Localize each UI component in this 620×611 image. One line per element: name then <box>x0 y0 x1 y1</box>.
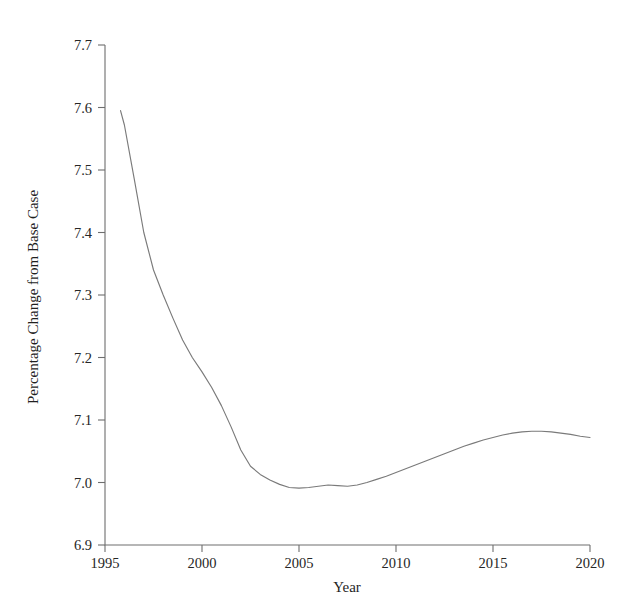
axis-frame <box>105 45 590 545</box>
x-axis-tick-label: 2015 <box>479 555 508 571</box>
y-axis-tick-label-group: 6.97.07.17.27.37.47.57.67.7 <box>74 37 93 553</box>
y-axis-tick-label: 7.0 <box>74 475 92 491</box>
x-axis-tick-label: 2000 <box>188 555 217 571</box>
x-axis-title: Year <box>333 579 361 595</box>
data-series-line <box>121 111 590 489</box>
chart-container: 6.97.07.17.27.37.47.57.67.7 199520002005… <box>0 0 620 611</box>
y-axis-tick-label: 7.6 <box>74 100 92 116</box>
x-axis-tick-label-group: 199520002005201020152020 <box>91 555 605 571</box>
y-axis-tick-label: 7.2 <box>74 350 92 366</box>
x-axis-tick-label: 2005 <box>285 555 314 571</box>
line-chart: 6.97.07.17.27.37.47.57.67.7 199520002005… <box>0 0 620 611</box>
y-axis-tick-label: 7.4 <box>74 225 93 241</box>
x-axis-tick-label: 2020 <box>576 555 605 571</box>
x-axis-tick-mark-group <box>105 545 590 552</box>
y-axis-tick-label: 7.3 <box>74 287 92 303</box>
y-axis-tick-label: 6.9 <box>74 537 92 553</box>
y-axis-tick-label: 7.1 <box>74 412 92 428</box>
x-axis-tick-label: 2010 <box>382 555 411 571</box>
y-axis-tick-label: 7.5 <box>74 162 92 178</box>
x-axis-tick-label: 1995 <box>91 555 120 571</box>
y-axis-tick-mark-group <box>98 45 105 545</box>
y-axis-title: Percentage Change from Base Case <box>25 190 41 404</box>
y-axis-tick-label: 7.7 <box>74 37 92 53</box>
